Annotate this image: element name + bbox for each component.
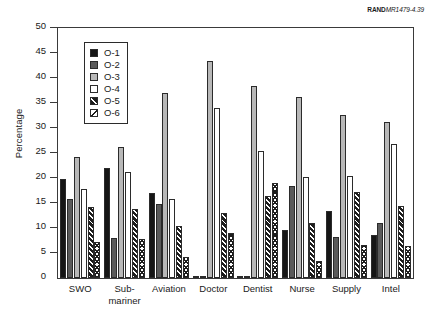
bar <box>94 242 100 279</box>
bar <box>354 192 360 279</box>
x-axis-label: Aviation <box>147 283 191 295</box>
y-tick-label: 30 <box>35 121 46 131</box>
y-tick-label: 20 <box>35 171 46 181</box>
bar <box>377 223 383 279</box>
bar <box>282 230 288 278</box>
x-axis-label: Nurse <box>280 283 324 295</box>
legend-label: O-5 <box>104 96 120 106</box>
bar <box>340 115 346 278</box>
y-tick-label: 10 <box>35 221 46 231</box>
bar <box>118 147 124 279</box>
y-tick-label: 0 <box>41 271 46 281</box>
legend-swatch-icon <box>90 85 98 93</box>
bar <box>296 97 302 278</box>
legend-item: O-3 <box>90 71 120 83</box>
legend-swatch-icon <box>90 61 98 69</box>
bar <box>74 157 80 278</box>
x-axis-label: Dentist <box>236 283 280 295</box>
legend-item: O-6 <box>90 107 120 119</box>
bar <box>149 193 155 279</box>
bar-group <box>147 28 191 278</box>
legend-swatch-icon <box>90 109 98 117</box>
bar <box>176 226 182 279</box>
bar <box>405 246 411 279</box>
legend-swatch-icon <box>90 73 98 81</box>
bar <box>391 144 397 278</box>
bar-group <box>280 28 324 278</box>
y-tick-mark <box>50 177 57 178</box>
x-axis-label: Sub- mariner <box>102 283 146 306</box>
bar <box>333 237 339 279</box>
bar <box>303 177 309 279</box>
bar <box>316 261 322 279</box>
bar <box>81 189 87 279</box>
x-axis-label: Supply <box>324 283 368 295</box>
source-credit-document: MR1479-4.39 <box>386 6 424 13</box>
bar-group <box>236 28 280 278</box>
y-axis-ticks: 05101520253035404550 <box>0 27 57 279</box>
y-tick-mark <box>50 227 57 228</box>
bar <box>111 238 117 279</box>
bar <box>156 204 162 278</box>
bar <box>398 206 404 279</box>
bar <box>258 151 264 278</box>
legend-label: O-6 <box>104 108 120 118</box>
bar <box>125 172 131 278</box>
bar <box>214 108 220 278</box>
bar <box>272 183 278 279</box>
source-credit-brand: RAND <box>367 6 385 13</box>
legend-item: O-5 <box>90 95 120 107</box>
bar <box>169 199 175 278</box>
legend-label: O-1 <box>104 48 120 58</box>
bar <box>104 168 110 278</box>
bar <box>67 199 73 279</box>
y-tick-label: 40 <box>35 71 46 81</box>
y-tick-label: 15 <box>35 196 46 206</box>
bar-group <box>191 28 235 278</box>
y-tick-label: 45 <box>35 46 46 56</box>
x-axis-label: Intel <box>369 283 413 295</box>
y-tick-mark <box>50 252 57 253</box>
legend-item: O-2 <box>90 59 120 71</box>
legend-label: O-4 <box>104 84 120 94</box>
legend-item: O-4 <box>90 83 120 95</box>
bar-group <box>324 28 368 278</box>
x-axis-label: Doctor <box>191 283 235 295</box>
bar <box>251 86 257 279</box>
y-tick-mark <box>50 127 57 128</box>
y-tick-label: 50 <box>35 21 46 31</box>
y-tick-mark <box>50 202 57 203</box>
bar <box>221 213 227 279</box>
bar <box>361 245 367 278</box>
bar <box>265 196 271 278</box>
bar <box>228 233 234 278</box>
legend-label: O-3 <box>104 72 120 82</box>
bar <box>309 223 315 278</box>
bar <box>132 209 138 278</box>
y-tick-mark <box>50 52 57 53</box>
source-credit: RANDMR1479-4.39 <box>367 7 424 14</box>
y-tick-label: 35 <box>35 96 46 106</box>
bar <box>326 211 332 278</box>
y-tick-label: 25 <box>35 146 46 156</box>
bar <box>347 176 353 278</box>
bar <box>183 257 189 278</box>
bar <box>162 93 168 278</box>
y-tick-mark <box>50 102 57 103</box>
bar <box>237 276 243 278</box>
y-tick-label: 5 <box>41 246 46 256</box>
bar <box>289 186 295 279</box>
bar <box>88 207 94 279</box>
legend-swatch-icon <box>90 97 98 105</box>
legend-label: O-2 <box>104 60 120 70</box>
legend-swatch-icon <box>90 49 98 57</box>
y-tick-mark <box>50 152 57 153</box>
chart-legend: O-1O-2O-3O-4O-5O-6 <box>84 42 128 124</box>
bar <box>371 235 377 279</box>
bar <box>384 122 390 278</box>
bar <box>193 276 199 278</box>
x-axis-labels: SWOSub- marinerAviationDoctorDentistNurs… <box>58 283 413 323</box>
bar-group <box>369 28 413 278</box>
bar <box>244 276 250 278</box>
legend-item: O-1 <box>90 47 120 59</box>
